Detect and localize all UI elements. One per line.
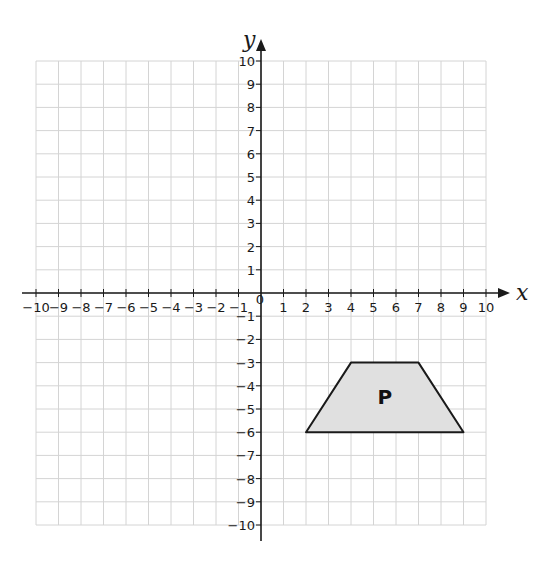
y-tick-label: 2	[247, 240, 255, 255]
coordinate-grid: P xy−10−9−8−7−6−5−4−3−2−112345678910−10−…	[0, 0, 540, 561]
y-tick-label: −2	[236, 332, 255, 347]
y-tick-label: −4	[236, 379, 255, 394]
axes	[22, 39, 510, 541]
y-tick-label: −5	[236, 402, 255, 417]
y-axis-label: y	[242, 27, 256, 52]
y-tick-label: 3	[247, 216, 255, 231]
x-tick-label: −9	[49, 300, 68, 315]
x-tick-label: 4	[347, 300, 355, 315]
x-tick-label: 3	[324, 300, 332, 315]
x-tick-label: 5	[369, 300, 377, 315]
y-tick-label: −7	[236, 448, 255, 463]
y-tick-label: 9	[247, 77, 255, 92]
x-tick-label: −6	[116, 300, 135, 315]
x-axis-label: x	[516, 280, 529, 305]
y-tick-label: 10	[238, 54, 255, 69]
x-tick-label: −3	[184, 300, 203, 315]
tick-labels: xy−10−9−8−7−6−5−4−3−2−112345678910−10−9−…	[22, 27, 529, 533]
x-axis-arrow-icon	[498, 288, 510, 298]
x-tick-label: −2	[206, 300, 225, 315]
x-tick-label: −4	[161, 300, 180, 315]
y-tick-label: 4	[247, 193, 255, 208]
shapes-layer: P	[306, 363, 464, 433]
x-tick-label: 9	[459, 300, 467, 315]
y-tick-label: −10	[228, 518, 255, 533]
y-tick-label: 7	[247, 124, 255, 139]
y-tick-label: −6	[236, 425, 255, 440]
y-tick-label: 1	[247, 263, 255, 278]
y-tick-label: −9	[236, 495, 255, 510]
y-tick-label: −8	[236, 472, 255, 487]
x-tick-label: 10	[478, 300, 495, 315]
x-tick-label: 1	[279, 300, 287, 315]
x-tick-label: −5	[139, 300, 158, 315]
x-tick-label: 6	[392, 300, 400, 315]
x-tick-label: −10	[22, 300, 49, 315]
y-tick-label: −3	[236, 356, 255, 371]
shape-label: P	[377, 385, 392, 409]
y-tick-label: −1	[236, 309, 255, 324]
x-tick-label: −7	[94, 300, 113, 315]
origin-label: 0	[256, 292, 264, 307]
x-tick-label: 8	[437, 300, 445, 315]
y-tick-label: 6	[247, 147, 255, 162]
x-tick-label: −8	[71, 300, 90, 315]
y-axis-arrow-icon	[256, 39, 266, 51]
x-tick-label: 7	[414, 300, 422, 315]
y-tick-label: 5	[247, 170, 255, 185]
x-tick-label: 2	[302, 300, 310, 315]
y-tick-label: 8	[247, 100, 255, 115]
